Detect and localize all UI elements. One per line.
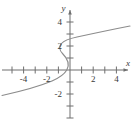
y-tick-label-2: 2 bbox=[58, 41, 63, 51]
y-tick-label-4: 4 bbox=[58, 17, 63, 27]
curve-group bbox=[2, 26, 130, 96]
x-tick-label--2: -2 bbox=[43, 74, 51, 84]
x-tick-label--4: -4 bbox=[20, 74, 28, 84]
x-axis-arrow-icon bbox=[124, 68, 129, 72]
x-tick-label-4: 4 bbox=[114, 74, 119, 84]
cartesian-plot: -4 -2 2 4 4 2 -2 y x bbox=[0, 0, 132, 122]
x-tick-label-2: 2 bbox=[91, 74, 96, 84]
y-axis-label: y bbox=[61, 3, 66, 13]
y-tick-label--2: -2 bbox=[55, 89, 63, 99]
x-axis-label: x bbox=[125, 58, 130, 68]
cubic-curve bbox=[2, 26, 130, 96]
y-axis-arrow-icon bbox=[68, 10, 72, 15]
axes-group bbox=[2, 10, 128, 118]
graph-figure: -4 -2 2 4 4 2 -2 y x bbox=[0, 0, 132, 122]
